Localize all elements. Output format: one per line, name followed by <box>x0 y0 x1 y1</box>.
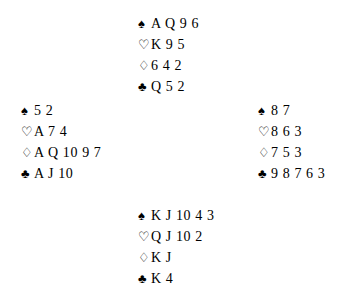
hand-east-diamonds-row: ♢ 7 5 3 <box>258 142 325 163</box>
heart-icon: ♡ <box>21 121 34 142</box>
hand-north: ♠ A Q 9 6 ♡ K 9 5 ♢ 6 4 2 ♣ Q 5 2 <box>138 13 199 97</box>
hand-west-diamonds-row: ♢ A Q 10 9 7 <box>21 142 101 163</box>
hand-north-clubs-row: ♣ Q 5 2 <box>138 76 199 97</box>
hand-west-spades-row: ♠ 5 2 <box>21 100 101 121</box>
hand-west-spades-cards: 5 2 <box>34 100 53 121</box>
hand-north-diamonds-row: ♢ 6 4 2 <box>138 55 199 76</box>
club-icon: ♣ <box>258 163 271 184</box>
hand-south-spades-row: ♠ K J 10 4 3 <box>138 205 215 226</box>
hand-north-spades-row: ♠ A Q 9 6 <box>138 13 199 34</box>
hand-south-hearts-cards: Q J 10 2 <box>151 226 203 247</box>
diamond-icon: ♢ <box>138 55 151 76</box>
heart-icon: ♡ <box>138 34 151 55</box>
hand-north-hearts-row: ♡ K 9 5 <box>138 34 199 55</box>
hand-east-diamonds-cards: 7 5 3 <box>271 142 302 163</box>
spade-icon: ♠ <box>21 100 34 121</box>
heart-icon: ♡ <box>138 226 151 247</box>
hand-east-clubs-row: ♣ 9 8 7 6 3 <box>258 163 325 184</box>
hand-north-clubs-cards: Q 5 2 <box>151 76 185 97</box>
hand-east-spades-cards: 8 7 <box>271 100 290 121</box>
hand-west-clubs-row: ♣ A J 10 <box>21 163 101 184</box>
hand-north-spades-cards: A Q 9 6 <box>151 13 199 34</box>
hand-south-clubs-row: ♣ K 4 <box>138 268 215 289</box>
hand-west-hearts-cards: A 7 4 <box>34 121 67 142</box>
hand-south-diamonds-row: ♢ K J <box>138 247 215 268</box>
club-icon: ♣ <box>138 268 151 289</box>
heart-icon: ♡ <box>258 121 271 142</box>
club-icon: ♣ <box>21 163 34 184</box>
hand-west-clubs-cards: A J 10 <box>34 163 73 184</box>
hand-south-clubs-cards: K 4 <box>151 268 173 289</box>
spade-icon: ♠ <box>258 100 271 121</box>
hand-east-hearts-row: ♡ 8 6 3 <box>258 121 325 142</box>
hand-south: ♠ K J 10 4 3 ♡ Q J 10 2 ♢ K J ♣ K 4 <box>138 205 215 289</box>
spade-icon: ♠ <box>138 205 151 226</box>
diamond-icon: ♢ <box>258 142 271 163</box>
bridge-deal-diagram: ♠ A Q 9 6 ♡ K 9 5 ♢ 6 4 2 ♣ Q 5 2 ♠ 5 2 … <box>0 0 347 297</box>
hand-east-clubs-cards: 9 8 7 6 3 <box>271 163 325 184</box>
diamond-icon: ♢ <box>138 247 151 268</box>
hand-west-hearts-row: ♡ A 7 4 <box>21 121 101 142</box>
hand-west-diamonds-cards: A Q 10 9 7 <box>34 142 101 163</box>
hand-south-hearts-row: ♡ Q J 10 2 <box>138 226 215 247</box>
hand-north-hearts-cards: K 9 5 <box>151 34 185 55</box>
hand-east-spades-row: ♠ 8 7 <box>258 100 325 121</box>
hand-north-diamonds-cards: 6 4 2 <box>151 55 182 76</box>
hand-south-spades-cards: K J 10 4 3 <box>151 205 215 226</box>
club-icon: ♣ <box>138 76 151 97</box>
hand-east-hearts-cards: 8 6 3 <box>271 121 302 142</box>
hand-south-diamonds-cards: K J <box>151 247 172 268</box>
hand-west: ♠ 5 2 ♡ A 7 4 ♢ A Q 10 9 7 ♣ A J 10 <box>21 100 101 184</box>
spade-icon: ♠ <box>138 13 151 34</box>
diamond-icon: ♢ <box>21 142 34 163</box>
hand-east: ♠ 8 7 ♡ 8 6 3 ♢ 7 5 3 ♣ 9 8 7 6 3 <box>258 100 325 184</box>
